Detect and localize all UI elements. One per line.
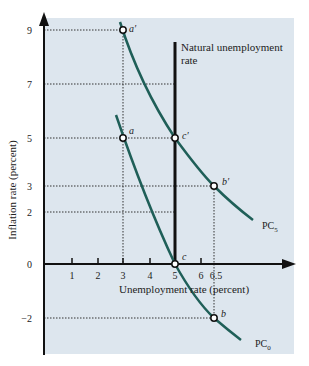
label-a-prime: a′ [129,23,137,34]
x-tick-1: 1 [70,270,75,281]
point-a [120,135,126,141]
point-b-prime [211,183,217,189]
label-a: a [129,125,134,136]
label-b: b [221,308,226,319]
x-tick-4: 4 [148,270,153,281]
label-c-prime: c′ [182,130,189,141]
y-tick-3: 3 [27,181,32,192]
y-axis-title: Inflation rate (percent) [6,140,19,240]
y-tick-9: 9 [27,25,32,36]
label-c: c [182,251,187,262]
natural-rate-label-line1: Natural unemployment [181,41,283,53]
label-b-prime: b′ [222,176,230,187]
x-tick-5: 5 [173,270,178,281]
point-c [172,261,178,267]
x-axis-title: Unemployment rate (percent) [119,283,249,296]
x-tick-3: 3 [121,270,126,281]
point-c-prime [172,135,178,141]
y-tick-neg2: −2 [21,313,32,324]
y-tick-7: 7 [27,79,32,90]
point-a-prime [120,27,126,33]
y-tick-0: 0 [27,259,32,270]
y-tick-5: 5 [27,133,32,144]
phillips-curve-chart: 9 7 5 3 2 0 −2 1 2 3 4 5 6 6.5 Unemploym… [0,0,309,366]
point-b [211,315,217,321]
x-tick-2: 2 [96,270,101,281]
x-tick-6: 6 [199,270,204,281]
y-tick-2: 2 [27,207,32,218]
natural-rate-label-line2: rate [181,54,198,66]
x-tick-6-5: 6.5 [210,270,223,281]
